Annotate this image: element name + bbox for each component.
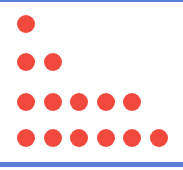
dot-row (17, 53, 62, 71)
dot (97, 129, 115, 147)
dot (70, 129, 88, 147)
dot (123, 129, 141, 147)
dot (17, 129, 35, 147)
dot (17, 53, 35, 71)
dot-row (17, 15, 35, 33)
dot (70, 93, 88, 111)
dot-row (17, 129, 168, 147)
dot (17, 15, 35, 33)
top-border (0, 0, 183, 2)
dot (150, 129, 168, 147)
bottom-margin (0, 167, 183, 170)
dot (44, 129, 62, 147)
dot (123, 93, 141, 111)
dot (17, 93, 35, 111)
dot (44, 93, 62, 111)
dot (97, 93, 115, 111)
dot (44, 53, 62, 71)
dot-row (17, 93, 141, 111)
